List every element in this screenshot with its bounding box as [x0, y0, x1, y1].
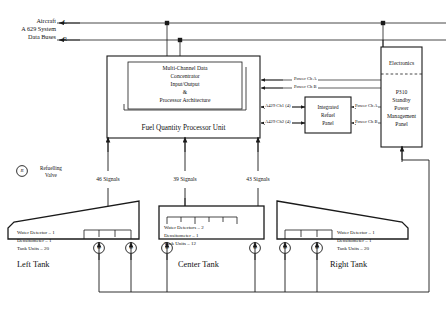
center-tank-valve-mark-2: R — [250, 245, 260, 251]
standby-panel-line2: Standby — [381, 97, 422, 105]
processor-inner-line4: & — [128, 89, 242, 97]
standby-panel-line3: Power — [381, 105, 422, 113]
power-ch-b-label: Power Ch B — [292, 84, 318, 89]
integrated-refuel-panel-line2: Refuel — [305, 112, 351, 119]
power-ch-a-label: Power Ch A — [292, 76, 318, 81]
bus-id-right: R — [63, 36, 67, 43]
panel-power-ch-a-label: Power Ch A — [354, 103, 378, 108]
integrated-refuel-panel-line3: Panel — [305, 120, 351, 127]
bus-caption-line3: Data Buses — [8, 34, 56, 41]
right-tank-name: Right Tank — [330, 260, 367, 269]
processor-inner-line1: Multi-Channel Data — [128, 65, 242, 73]
right-tank-valve-mark-2: R — [312, 245, 322, 251]
legend-refuelling-line1: Refuelling — [31, 165, 71, 171]
legend-valve-mark: R — [17, 168, 27, 174]
standby-panel-line4: Management — [381, 113, 422, 121]
a429-ch1-label: A429 Ch1 (4) — [264, 103, 292, 108]
left-tank-detail-2: Densitometer – 1 — [17, 237, 51, 245]
diagram-canvas — [0, 0, 446, 311]
panel-power-ch-b-label: Power Ch B — [354, 119, 378, 124]
right-tank-detail-1: Water Detector – 1 — [337, 229, 375, 237]
center-tank-valve-mark-1: R — [162, 245, 172, 251]
standby-panel-line5: Panel — [381, 121, 422, 129]
processor-inner-line5: Processor Architecture — [128, 97, 242, 105]
right-tank-detail-3: Tank Units – 20 — [337, 245, 369, 253]
fuel-quantity-system-diagram: Aircraft A 629 System Data Buses L R Mul… — [0, 0, 446, 311]
bus-junction-dots — [165, 21, 385, 42]
center-tank-detail-2: Densitometer – 1 — [164, 232, 198, 240]
processor-inner-line2: Concentrator — [128, 73, 242, 81]
left-tank-valve-mark-2: R — [126, 245, 136, 251]
signal-label-right: 43 Signals — [232, 176, 284, 182]
left-tank-valve-mark-1: R — [94, 245, 104, 251]
center-tank-name: Center Tank — [178, 260, 219, 269]
bus-caption-line2: A 629 System — [2, 26, 56, 33]
left-tank-name: Left Tank — [17, 260, 50, 269]
integrated-refuel-panel-line1: Integrated — [305, 104, 351, 111]
bus-id-left: L — [63, 19, 67, 26]
processor-inner-line3: Input/Output — [128, 81, 242, 89]
signal-label-center: 39 Signals — [159, 176, 211, 182]
right-tank-valve-mark-1: R — [280, 245, 290, 251]
bus-caption-line1: Aircraft — [8, 18, 56, 25]
center-tank-detail-1: Water Detectors – 2 — [164, 224, 204, 232]
standby-panel-line1: P310 — [381, 89, 422, 97]
a429-ch2-label: A429 Ch2 (4) — [264, 119, 292, 124]
legend-refuelling-line2: Valve — [31, 172, 71, 178]
electronics-label: Electronics — [381, 60, 422, 66]
right-tank-detail-2: Densitometer – 1 — [337, 237, 371, 245]
signal-label-left: 46 Signals — [82, 176, 134, 182]
fuel-quantity-processor-unit-title: Fuel Quantity Processor Unit — [107, 124, 260, 132]
left-tank-detail-3: Tank Units – 20 — [17, 245, 49, 253]
left-tank-detail-1: Water Detector – 1 — [17, 229, 55, 237]
